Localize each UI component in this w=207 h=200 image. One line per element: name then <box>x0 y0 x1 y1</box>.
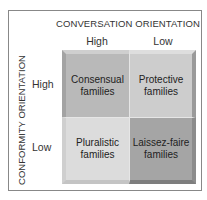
conformity-orientation-title: CONFORMITY ORIENTATION <box>16 55 27 185</box>
cell-pluralistic-families: Pluralistic families <box>62 117 129 184</box>
cell-label: Laissez-faire families <box>130 137 192 161</box>
cell-label: Pluralistic families <box>70 137 126 161</box>
conversation-orientation-title: CONVERSATION ORIENTATION <box>56 18 200 29</box>
cell-protective-families: Protective families <box>129 50 196 117</box>
column-header-high: High <box>67 35 127 47</box>
family-types-grid: Consensual families Protective families … <box>62 50 196 184</box>
cell-label: Consensual families <box>70 74 126 98</box>
row-header-low: Low <box>32 141 51 153</box>
cell-consensual-families: Consensual families <box>62 50 129 117</box>
column-header-low: Low <box>133 35 193 47</box>
cell-label: Protective families <box>133 74 189 98</box>
cell-laissez-faire-families: Laissez-faire families <box>129 117 196 184</box>
row-header-high: High <box>32 78 54 90</box>
